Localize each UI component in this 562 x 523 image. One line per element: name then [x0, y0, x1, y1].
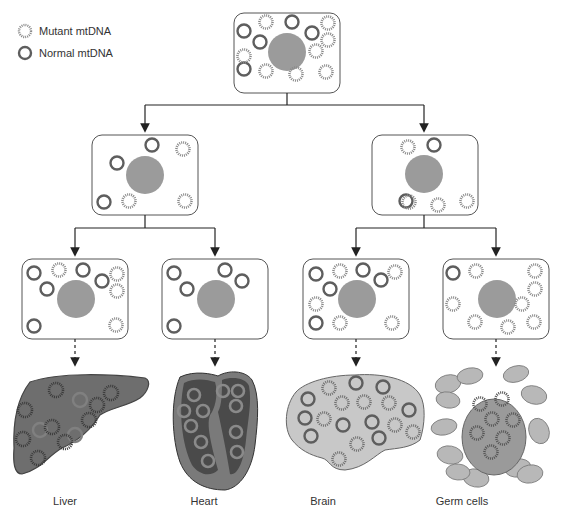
germ-cell-central	[462, 399, 526, 475]
legend-mutant-label: Mutant mtDNA	[39, 25, 111, 37]
liver-shape	[14, 375, 149, 474]
nucleus	[338, 280, 376, 318]
germ-cell	[525, 415, 553, 446]
nucleus	[126, 156, 164, 194]
cell-gen3-2	[162, 259, 268, 339]
label-liver: Liver	[15, 495, 115, 507]
germ-cell	[430, 417, 458, 437]
legend: Mutant mtDNA Normal mtDNA	[16, 20, 113, 64]
arrows-layer	[75, 93, 496, 362]
mtdna-heteroplasmy-diagram	[0, 0, 562, 523]
legend-item-mutant: Mutant mtDNA	[16, 20, 113, 42]
germ-cell	[519, 383, 549, 407]
heart-organ	[173, 372, 257, 490]
legend-item-normal: Normal mtDNA	[16, 42, 113, 64]
normal-mtdna-icon	[16, 44, 34, 62]
cell-top	[234, 13, 340, 93]
germ-cell	[436, 444, 465, 466]
germ-cells-organ	[430, 363, 553, 489]
label-brain: Brain	[273, 495, 373, 507]
liver-organ	[14, 375, 149, 474]
cell-gen2-left	[92, 135, 198, 215]
brain-organ	[286, 375, 424, 470]
germ-cell	[501, 363, 530, 385]
germ-cell	[435, 390, 461, 410]
cell-gen3-4	[443, 259, 549, 339]
label-heart: Heart	[154, 495, 254, 507]
nucleus	[405, 155, 443, 193]
cell-gen2-right	[372, 135, 478, 215]
mutant-mtdna-icon	[16, 22, 34, 40]
cell-gen3-1	[22, 259, 128, 339]
label-germ-cells: Germ cells	[412, 495, 512, 507]
cell-gen3-3	[303, 259, 409, 339]
nucleus	[478, 280, 516, 318]
legend-normal-label: Normal mtDNA	[39, 47, 113, 59]
nucleus	[197, 280, 235, 318]
nucleus	[268, 33, 306, 71]
nucleus	[57, 280, 95, 318]
